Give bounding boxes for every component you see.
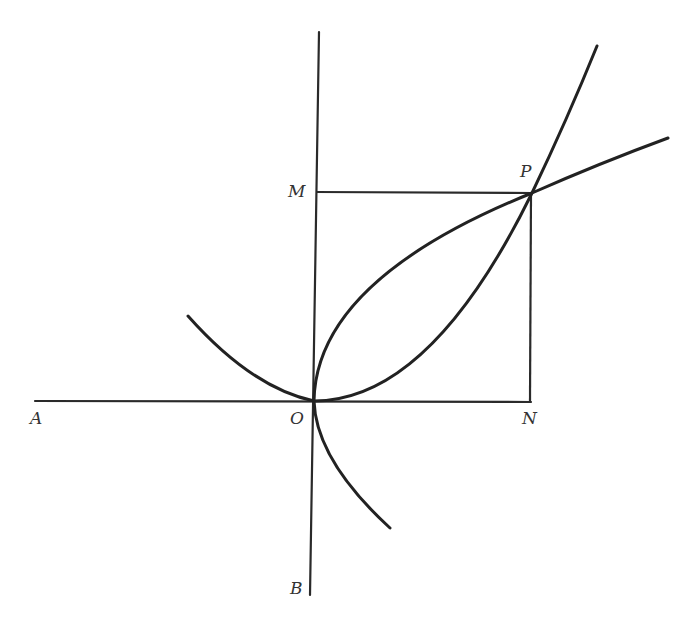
horizontal-axis [35,401,531,402]
label-M: M [288,183,305,200]
diagram-svg [0,0,696,633]
parabola-upward-right-branch [314,46,597,401]
label-N: N [522,410,537,427]
vertical-axis [310,32,319,595]
parabola-rightward-lower-branch [314,401,390,528]
segment-MP [316,192,532,193]
label-A: A [30,410,42,427]
segment-PN [530,193,531,402]
label-P: P [520,163,531,180]
parabola-upward-left-branch [188,316,314,401]
diagram-canvas: A O M P N B [0,0,696,633]
label-B: B [290,580,303,597]
label-O: O [290,410,304,427]
